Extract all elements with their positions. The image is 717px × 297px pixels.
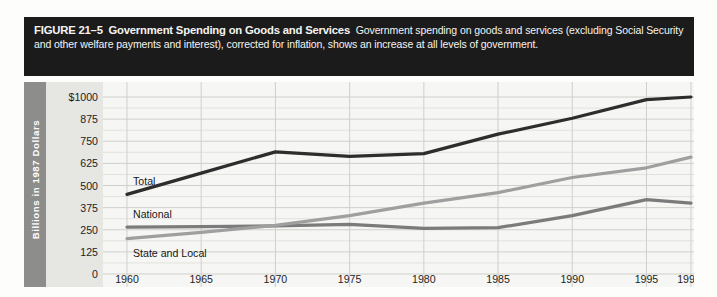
x-axis-tick-label: 1980 <box>412 273 436 285</box>
y-axis-title: Billions in 1987 Dollars <box>30 82 41 287</box>
x-axis-tick-label: 1975 <box>338 273 362 285</box>
y-axis-tick-label: 875 <box>80 113 98 125</box>
figure-caption-text: FIGURE 21–5 Government Spending on Goods… <box>34 23 684 52</box>
y-axis-tick-label: $1000 <box>69 91 98 103</box>
figure-number: FIGURE 21–5 <box>34 24 103 36</box>
y-axis-tick-label: 750 <box>80 135 98 147</box>
x-axis-tick-label: 1960 <box>115 273 139 285</box>
y-axis-tick-label: 125 <box>80 246 98 258</box>
y-axis-tick-label: 375 <box>80 202 98 214</box>
y-axis-tick-label: 0 <box>92 268 98 280</box>
x-axis-tick-label: 1990 <box>560 273 584 285</box>
series-label-national: National <box>133 208 172 220</box>
figure-container: FIGURE 21–5 Government Spending on Goods… <box>0 0 717 297</box>
figure-caption-bar: FIGURE 21–5 Government Spending on Goods… <box>24 17 694 76</box>
y-axis-tick-label: 500 <box>80 180 98 192</box>
x-axis-tick-label: 1985 <box>486 273 510 285</box>
series-label-state-and-local: State and Local <box>133 247 207 259</box>
x-axis-tick-label: 1965 <box>189 273 213 285</box>
figure-title: Government Spending on Goods and Service… <box>108 24 350 36</box>
series-label-total: Total <box>133 175 155 187</box>
y-axis-tick-label: 250 <box>80 224 98 236</box>
x-axis-tick-label: 1970 <box>264 273 288 285</box>
x-axis-tick-label: 1998* <box>677 273 694 285</box>
x-axis-tick-label: 1995 <box>635 273 659 285</box>
y-axis-title-band: Billions in 1987 Dollars <box>24 82 46 287</box>
y-axis-tick-label: 625 <box>80 157 98 169</box>
series-lines-group <box>127 97 691 239</box>
chart-frame: Billions in 1987 Dollars $10008757506255… <box>24 82 694 287</box>
